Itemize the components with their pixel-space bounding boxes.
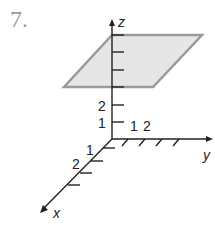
y-ticks [122, 139, 179, 146]
z-tick-label-1: 1 [98, 115, 106, 131]
z-axis-arrow-icon [109, 19, 115, 26]
coordinate-diagram: z y x 1 2 1 2 1 2 [0, 0, 215, 227]
x-axis-arrow-icon [40, 205, 48, 213]
z-tick-label-2: 2 [98, 98, 106, 114]
y-tick-label-1: 1 [130, 118, 138, 134]
x-tick-label-2: 2 [72, 156, 80, 172]
plane-z6 [64, 35, 202, 87]
x-axis-label: x [52, 205, 61, 221]
y-tick-label-2: 2 [143, 118, 151, 134]
z-axis-label: z [117, 14, 125, 30]
x-axis [44, 139, 112, 208]
y-axis-arrow-icon [206, 136, 213, 142]
y-axis-label: y [202, 147, 211, 163]
x-tick-label-1: 1 [86, 142, 94, 158]
